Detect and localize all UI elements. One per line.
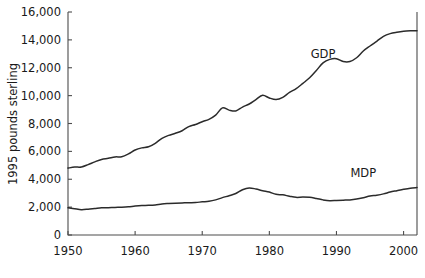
x-tick-label: 1990 (322, 244, 351, 258)
x-tick-labels: 195019601970198019902000 (53, 244, 418, 258)
y-tick-label: 10,000 (21, 89, 61, 103)
x-tick-label: 1960 (120, 244, 149, 258)
y-axis-title: 1995 pounds sterling (6, 63, 20, 185)
series-line-mdp (68, 188, 417, 210)
series-label-mdp: MDP (350, 166, 376, 180)
y-tick-label: 2,000 (28, 200, 61, 214)
plot-axes (68, 12, 417, 235)
tick-marks (68, 12, 404, 235)
x-tick-label: 1980 (255, 244, 284, 258)
x-tick-label: 1970 (188, 244, 217, 258)
y-tick-label: 14,000 (21, 33, 61, 47)
series-annotations: GDPMDP (311, 47, 377, 180)
y-tick-label: 6,000 (28, 144, 61, 158)
y-axis-title-label: 1995 pounds sterling (6, 63, 20, 185)
x-tick-label: 2000 (389, 244, 418, 258)
line-chart: 1995 pounds sterling 02,0004,0006,0008,0… (0, 0, 425, 278)
axis-frame (68, 12, 417, 235)
y-tick-label: 16,000 (21, 5, 61, 19)
y-tick-label: 12,000 (21, 61, 61, 75)
series-label-gdp: GDP (311, 47, 336, 61)
series-line-gdp (68, 31, 417, 168)
data-series (68, 31, 417, 210)
chart-figure: 1995 pounds sterling 02,0004,0006,0008,0… (0, 0, 425, 278)
y-tick-label: 8,000 (28, 117, 61, 131)
y-tick-labels: 02,0004,0006,0008,00010,00012,00014,0001… (21, 5, 61, 242)
x-tick-label: 1950 (53, 244, 82, 258)
y-tick-label: 4,000 (28, 172, 61, 186)
y-tick-label: 0 (54, 228, 61, 242)
